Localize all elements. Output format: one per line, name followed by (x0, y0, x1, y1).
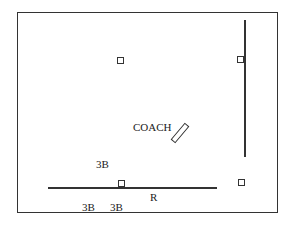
third-base-label-bottom-right: 3B (110, 202, 123, 213)
top-right-base (237, 56, 244, 63)
right-vertical-line (244, 20, 246, 157)
runner-label: R (150, 192, 157, 203)
coach-label: COACH (133, 122, 172, 133)
third-base-label-top: 3B (96, 159, 109, 170)
bottom-left-base (118, 180, 125, 187)
bottom-horizontal-line (48, 187, 217, 189)
bottom-right-base (238, 179, 245, 186)
top-left-base (117, 57, 124, 64)
third-base-label-bottom-left: 3B (82, 202, 95, 213)
